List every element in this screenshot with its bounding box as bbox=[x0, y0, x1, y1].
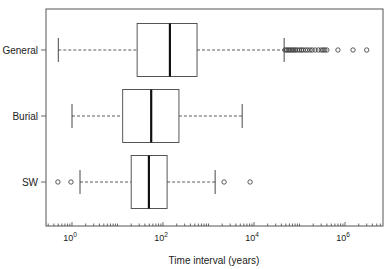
outlier-point bbox=[365, 48, 369, 52]
x-tick-label: 100 bbox=[63, 231, 77, 243]
outlier-point bbox=[56, 180, 60, 184]
outlier-point bbox=[336, 48, 340, 52]
boxplot-chart: 100102104106GeneralBurialSW Time interva… bbox=[0, 0, 391, 269]
y-tick-label-sw: SW bbox=[22, 177, 39, 188]
outlier-point bbox=[222, 180, 226, 184]
outlier-point bbox=[351, 48, 355, 52]
plot-frame bbox=[46, 9, 383, 226]
x-axis-label: Time interval (years) bbox=[169, 255, 260, 266]
x-tick-label: 102 bbox=[154, 231, 168, 243]
y-tick-label-burial: Burial bbox=[12, 111, 38, 122]
outlier-point bbox=[69, 180, 73, 184]
outlier-point bbox=[248, 180, 252, 184]
iqr-box bbox=[137, 24, 197, 77]
plot-area: 100102104106GeneralBurialSW bbox=[2, 9, 383, 243]
y-tick-label-general: General bbox=[2, 45, 38, 56]
x-tick-label: 104 bbox=[245, 231, 259, 243]
x-tick-label: 106 bbox=[336, 231, 350, 243]
